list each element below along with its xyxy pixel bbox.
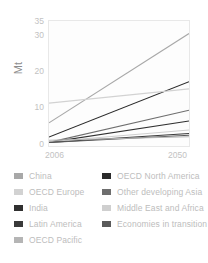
legend-item-label: China (29, 172, 52, 181)
legend-item-label: Latin America (29, 220, 82, 229)
legend-column-left: ChinaOECD EuropeIndiaLatin AmericaOECD P… (14, 168, 106, 248)
legend-item[interactable]: India (14, 200, 106, 216)
legend-swatch-icon (14, 221, 23, 227)
legend-item[interactable]: OECD North America (102, 168, 208, 184)
legend-item-label: OECD North America (117, 172, 200, 181)
x-tick-end: 2050 (168, 150, 187, 160)
legend-swatch-icon (102, 189, 111, 195)
legend-column-right: OECD North AmericaOther developing AsiaM… (102, 168, 208, 232)
y-tick-20: 20 (24, 67, 44, 76)
legend-item[interactable]: China (14, 168, 106, 184)
legend-item[interactable]: Other developing Asia (102, 184, 208, 200)
legend-item-label: Middle East and Africa (117, 204, 204, 213)
plot-area (48, 20, 190, 147)
y-tick-10: 10 (24, 103, 44, 112)
legend-swatch-icon (102, 221, 111, 227)
line-chart: Mt 35 30 20 10 0 2006 2050 (0, 0, 208, 165)
legend-item[interactable]: Latin America (14, 216, 106, 232)
legend-item-label: India (29, 204, 48, 213)
chart-legend: ChinaOECD EuropeIndiaLatin AmericaOECD P… (0, 168, 208, 263)
chart-page: Mt 35 30 20 10 0 2006 2050 ChinaOECD Eur… (0, 0, 208, 263)
legend-item[interactable]: Economies in transition (102, 216, 208, 232)
legend-item-label: Economies in transition (117, 220, 207, 229)
legend-item-label: Other developing Asia (117, 188, 202, 197)
y-tick-0: 0 (24, 140, 44, 149)
legend-item[interactable]: OECD Europe (14, 184, 106, 200)
legend-swatch-icon (102, 205, 111, 211)
legend-swatch-icon (14, 205, 23, 211)
legend-item-label: OECD Pacific (29, 236, 82, 245)
y-axis-label: Mt (12, 55, 24, 81)
y-tick-35: 35 (24, 17, 44, 26)
series-line (49, 89, 189, 103)
legend-item[interactable]: OECD Pacific (14, 232, 106, 248)
legend-swatch-icon (102, 173, 111, 179)
legend-item[interactable]: Middle East and Africa (102, 200, 208, 216)
y-tick-30: 30 (24, 31, 44, 40)
legend-swatch-icon (14, 173, 23, 179)
y-axis-tick-labels: 35 30 20 10 0 (24, 0, 44, 165)
x-tick-start: 2006 (45, 150, 64, 160)
series-lines (49, 21, 189, 146)
legend-item-label: OECD Europe (29, 188, 84, 197)
legend-swatch-icon (14, 237, 23, 243)
legend-swatch-icon (14, 189, 23, 195)
